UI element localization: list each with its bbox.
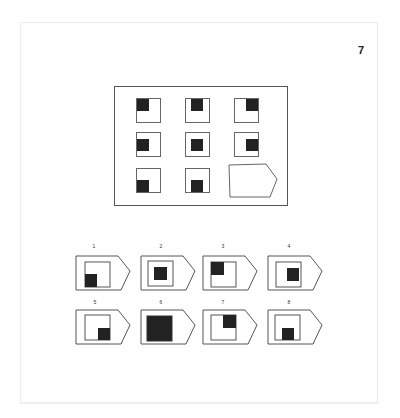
option-label-5: 5 xyxy=(94,299,97,305)
dark-square-middle-right xyxy=(246,139,258,151)
answer-option-2[interactable] xyxy=(140,255,197,291)
dark-square-top-center xyxy=(191,99,203,111)
option-label-8: 8 xyxy=(288,299,291,305)
dark-square-bottom-center xyxy=(191,180,203,192)
pentagon-arrow-icon xyxy=(202,309,259,346)
option-label-7: 7 xyxy=(222,299,225,305)
matrix-cell-r3c1 xyxy=(136,168,161,193)
dark-square-center xyxy=(191,139,203,151)
matrix-cell-r2c3 xyxy=(234,132,259,157)
option-label-6: 6 xyxy=(160,299,163,305)
option-label-3: 3 xyxy=(222,243,225,249)
dark-square-top-left xyxy=(137,99,149,111)
option-label-1: 1 xyxy=(93,243,96,249)
pentagon-arrow-icon xyxy=(75,309,132,346)
matrix-cell-r2c1 xyxy=(136,132,161,157)
pentagon-arrow-icon xyxy=(202,255,259,292)
option-label-2: 2 xyxy=(160,243,163,249)
answer-option-8[interactable] xyxy=(267,309,324,345)
page-card xyxy=(20,22,378,403)
matrix-cell-r2c2 xyxy=(185,132,210,157)
answer-option-6[interactable] xyxy=(140,309,197,345)
pentagon-arrow-icon xyxy=(140,309,197,346)
dark-square-bottom-left xyxy=(137,180,149,192)
matrix-cell-r1c1 xyxy=(136,98,161,123)
pentagon-arrow-icon xyxy=(267,255,324,292)
pentagon-arrow-icon xyxy=(75,255,132,292)
matrix-cell-r1c2 xyxy=(185,98,210,123)
option-label-4: 4 xyxy=(288,243,291,249)
matrix-cell-r3c2 xyxy=(185,168,210,193)
matrix-cell-r1c3 xyxy=(234,98,259,123)
dark-square-middle-left xyxy=(137,139,149,151)
pentagon-arrow-icon xyxy=(140,255,197,292)
dark-square-top-right xyxy=(246,99,258,111)
answer-option-7[interactable] xyxy=(202,309,259,345)
answer-option-3[interactable] xyxy=(202,255,259,291)
answer-option-5[interactable] xyxy=(75,309,132,345)
pentagon-arrow-icon xyxy=(267,309,324,346)
answer-option-4[interactable] xyxy=(267,255,324,291)
missing-answer-placeholder-pentagon xyxy=(228,163,280,199)
answer-option-1[interactable] xyxy=(75,255,132,291)
page-number: 7 xyxy=(358,44,364,56)
